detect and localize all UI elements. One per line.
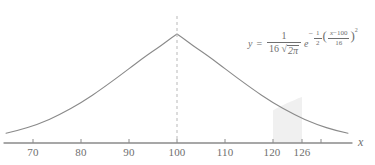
normal-distribution-figure: 70 80 90 100 110 120 126 x y = 1 16 √ 2π xyxy=(0,0,375,165)
tick-label-70: 70 xyxy=(27,146,38,158)
z-score-denominator: 16 xyxy=(333,39,344,47)
z-score-fraction: x−100 16 xyxy=(328,30,350,47)
tick-label-120: 120 xyxy=(263,146,280,158)
square-root-group: √ 2π xyxy=(282,44,300,56)
coefficient-fraction: 1 16 √ 2π xyxy=(267,31,301,56)
tick-label-126: 126 xyxy=(293,146,310,158)
exponent-group: − 1 2 ( x−100 16 ) 2 xyxy=(309,30,358,47)
tick-label-110: 110 xyxy=(217,146,234,158)
tick-label-90: 90 xyxy=(123,146,134,158)
plot-canvas xyxy=(0,0,375,165)
exponent-half-numerator: 1 xyxy=(314,30,322,38)
coefficient-numerator: 1 xyxy=(280,31,289,42)
coefficient-denominator: 16 √ 2π xyxy=(267,43,301,56)
equation-lhs: y xyxy=(248,39,252,49)
z-score-mean: 100 xyxy=(337,29,348,37)
radicand-two-pi: 2π xyxy=(287,45,299,56)
tick-label-80: 80 xyxy=(75,146,86,158)
z-score-numerator: x−100 xyxy=(328,30,350,38)
tick-label-100: 100 xyxy=(168,146,185,158)
exponent-one-half: 1 2 xyxy=(314,30,322,47)
equation-equals-sign: = xyxy=(256,39,262,49)
x-axis-variable-label: x xyxy=(358,135,363,150)
exponent-minus-sign: − xyxy=(309,30,314,38)
exponent-power-two: 2 xyxy=(355,27,358,33)
exponent-half-denominator: 2 xyxy=(314,39,322,47)
paren-open: ( xyxy=(323,30,327,42)
coefficient-denominator-lead: 16 xyxy=(269,43,279,54)
pdf-equation-annotation: y = 1 16 √ 2π e − 1 xyxy=(248,31,358,56)
shaded-area-120-to-126 xyxy=(273,97,302,143)
